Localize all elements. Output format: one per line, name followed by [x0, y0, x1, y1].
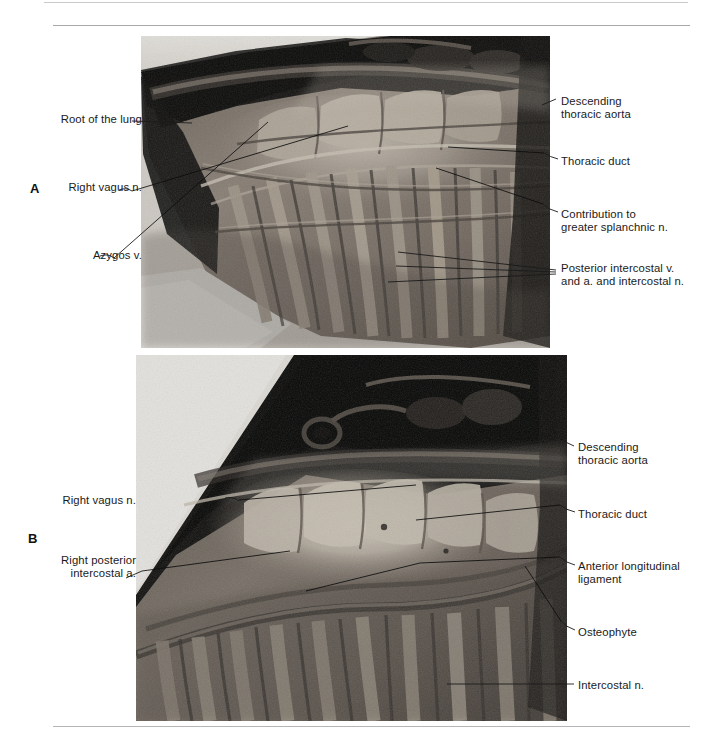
label-azygos-v: Azygos v. [20, 249, 142, 262]
panel-b-letter: B [28, 531, 37, 546]
label-contribution-to-greater-splanchnic-n: Contribution to greater splanchnic n. [561, 208, 703, 235]
label-posterior-intercostal-v-and-a-and-intercostal-n: Posterior intercostal v. and a. and inte… [561, 262, 705, 289]
label-right-vagus-n-a: Right vagus n. [20, 181, 142, 194]
label-intercostal-n: Intercostal n. [578, 679, 710, 692]
label-descending-thoracic-aorta-b: Descending thoracic aorta [578, 441, 710, 468]
label-right-vagus-n-b: Right vagus n. [14, 494, 136, 507]
horizontal-rule-bottom [53, 726, 690, 727]
figure-page: A Root of the lung Right vagus n. Azygos… [0, 0, 710, 744]
label-osteophyte: Osteophyte [578, 626, 710, 639]
label-root-of-the-lung: Root of the lung [20, 113, 142, 126]
label-thoracic-duct-a: Thoracic duct [561, 155, 701, 168]
panel-a-photograph [141, 36, 550, 348]
horizontal-rule-top [53, 25, 690, 26]
horizontal-rule-top-edge [44, 2, 688, 3]
panel-b-photograph [136, 355, 567, 721]
label-descending-thoracic-aorta-a: Descending thoracic aorta [561, 95, 701, 122]
label-thoracic-duct-b: Thoracic duct [578, 508, 710, 521]
label-anterior-longitudinal-ligament: Anterior longitudinal ligament [578, 560, 710, 587]
label-right-posterior-intercostal-a: Right posterior intercostal a. [14, 554, 136, 581]
